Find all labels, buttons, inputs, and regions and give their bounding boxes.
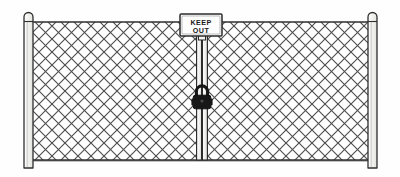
- mesh-left-panel: [33, 22, 199, 160]
- keep-out-sign[interactable]: KEEP OUT: [180, 14, 222, 36]
- padlock-right-ear: [210, 98, 212, 105]
- fence-scene-svg: KEEP OUT: [0, 0, 400, 177]
- padlock-left-ear: [191, 98, 193, 105]
- fence-illustration: KEEP OUT: [0, 0, 400, 177]
- right-post: [368, 13, 377, 169]
- padlock-keyhole-icon: [201, 100, 204, 103]
- left-post: [24, 13, 33, 169]
- mesh-right-panel: [205, 22, 368, 160]
- sign-line-2: OUT: [193, 26, 210, 35]
